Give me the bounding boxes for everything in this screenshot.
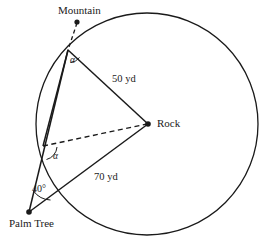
- segment-lower-to-rock-dashed: [43, 124, 147, 146]
- label-rock: Rock: [157, 118, 180, 129]
- label-mountain: Mountain: [58, 5, 101, 16]
- label-alpha-lower: α: [53, 152, 58, 162]
- point-marker-palm-tree: [26, 209, 32, 215]
- diagram-canvas: [0, 0, 266, 241]
- label-angle-40-degrees: 40°: [32, 184, 46, 194]
- segment-lower-to-upper: [43, 50, 68, 146]
- label-alpha-upper: α: [70, 56, 75, 66]
- geometry-diagram: Mountain Rock Palm Tree α α 40° 50 yd 70…: [0, 0, 266, 241]
- point-marker-mountain: [74, 19, 79, 24]
- label-distance-70-yd: 70 yd: [94, 172, 118, 183]
- label-distance-50-yd: 50 yd: [112, 74, 136, 85]
- point-marker-rock: [145, 121, 151, 127]
- segment-upper-to-rock: [68, 50, 148, 124]
- segment-mountain-to-upper-dashed: [68, 23, 77, 50]
- label-palm-tree: Palm Tree: [9, 218, 54, 229]
